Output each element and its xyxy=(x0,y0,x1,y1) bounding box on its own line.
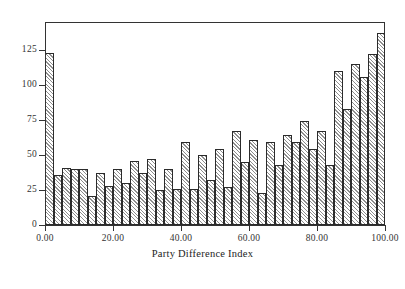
histogram-figure: 0255075100125 Party Difference Index 0.0… xyxy=(0,0,405,289)
histogram-bar xyxy=(326,165,335,225)
y-axis-tick-label: 100 xyxy=(5,80,37,90)
histogram-bar xyxy=(351,64,360,225)
histogram-bar xyxy=(266,142,275,225)
histogram-bar xyxy=(105,186,114,225)
y-axis-tick xyxy=(39,50,45,51)
x-axis-tick xyxy=(181,226,182,231)
x-axis-title: Party Difference Index xyxy=(0,248,405,259)
histogram-bar xyxy=(207,180,216,225)
histogram-bar xyxy=(377,33,386,225)
histogram-bar xyxy=(368,54,377,225)
x-axis-tick-label: 0.00 xyxy=(15,233,75,244)
histogram-bar xyxy=(62,168,71,225)
x-axis-tick xyxy=(113,226,114,231)
x-axis-tick-label: 20.00 xyxy=(83,233,143,244)
histogram-bar xyxy=(173,189,182,225)
histogram-bar xyxy=(190,189,199,225)
histogram-bar xyxy=(300,121,309,225)
x-axis-tick-label: 80.00 xyxy=(287,233,347,244)
y-axis-line xyxy=(45,22,46,226)
y-axis-tick xyxy=(39,155,45,156)
y-axis-tick-label: 125 xyxy=(5,45,37,55)
histogram-bar xyxy=(309,149,318,225)
histogram-bar xyxy=(360,77,369,225)
y-axis-tick-label: 50 xyxy=(5,150,37,160)
x-axis-tick-label: 60.00 xyxy=(219,233,279,244)
histogram-bar xyxy=(71,169,80,225)
plot-area xyxy=(45,22,385,225)
histogram-bar xyxy=(198,155,207,225)
histogram-bar xyxy=(156,190,165,225)
histogram-bar xyxy=(45,53,54,225)
histogram-bar xyxy=(96,173,105,225)
histogram-bar xyxy=(113,169,122,225)
histogram-bar xyxy=(122,183,131,225)
y-axis-tick-label: 25 xyxy=(5,185,37,195)
y-axis-labels: 0255075100125 xyxy=(0,0,37,289)
histogram-bar xyxy=(258,193,267,225)
x-axis-tick xyxy=(249,226,250,231)
histogram-bar xyxy=(241,162,250,225)
x-axis-tick xyxy=(385,226,386,231)
histogram-bar xyxy=(249,140,258,225)
y-axis-tick xyxy=(39,120,45,121)
bar-series xyxy=(45,22,385,225)
histogram-bar xyxy=(139,173,148,225)
histogram-bar xyxy=(54,175,63,225)
histogram-bar xyxy=(232,131,241,225)
x-axis-tick-label: 100.00 xyxy=(355,233,405,244)
histogram-bar xyxy=(283,135,292,225)
x-axis-tick-label: 40.00 xyxy=(151,233,211,244)
histogram-bar xyxy=(317,131,326,225)
y-axis-tick-label: 0 xyxy=(5,220,37,230)
histogram-bar xyxy=(147,159,156,225)
x-axis-line xyxy=(45,225,386,226)
x-axis-tick xyxy=(45,226,46,231)
y-axis-tick xyxy=(39,190,45,191)
histogram-bar xyxy=(292,142,301,225)
histogram-bar xyxy=(224,187,233,225)
histogram-bar xyxy=(88,196,97,225)
histogram-bar xyxy=(275,165,284,225)
histogram-bar xyxy=(130,161,139,225)
y-axis-tick-label: 75 xyxy=(5,115,37,125)
histogram-bar xyxy=(215,149,224,225)
histogram-bar xyxy=(334,71,343,225)
histogram-bar xyxy=(181,142,190,225)
x-axis-tick xyxy=(317,226,318,231)
histogram-bar xyxy=(164,169,173,225)
histogram-bar xyxy=(79,169,88,225)
histogram-bar xyxy=(343,109,352,225)
y-axis-tick xyxy=(39,85,45,86)
